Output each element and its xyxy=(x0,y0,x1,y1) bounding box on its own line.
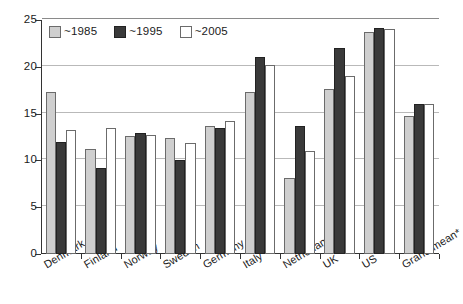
bar xyxy=(345,76,355,254)
x-tick-mark xyxy=(320,254,321,259)
bar xyxy=(85,149,95,254)
bar xyxy=(205,126,215,254)
bar-group xyxy=(121,20,161,254)
legend-swatch-1985 xyxy=(49,26,61,38)
bar xyxy=(185,143,195,254)
bar-group xyxy=(160,20,200,254)
y-tick-label-10: 10 xyxy=(11,154,37,166)
bar-group xyxy=(200,20,240,254)
legend-item: ~1995 xyxy=(114,26,162,38)
bar xyxy=(384,29,394,254)
bar xyxy=(255,57,265,254)
bar xyxy=(215,128,225,254)
y-tick-label-0: 0 xyxy=(11,248,37,260)
bar-group xyxy=(240,20,280,254)
bar xyxy=(96,168,106,254)
bar xyxy=(106,128,116,254)
bar-group xyxy=(359,20,399,254)
gridline-25 xyxy=(42,18,439,19)
x-axis-label-us: US xyxy=(360,253,379,270)
legend-label: ~1985 xyxy=(64,26,97,38)
legend-label: ~1995 xyxy=(129,26,162,38)
legend-swatch-2005 xyxy=(180,26,192,38)
bar xyxy=(324,89,334,254)
bar xyxy=(305,151,315,254)
bar xyxy=(165,138,175,254)
legend-item: ~2005 xyxy=(180,26,228,38)
y-tick-label-5: 5 xyxy=(11,201,37,213)
bar xyxy=(225,121,235,254)
bar xyxy=(66,130,76,254)
bar-group xyxy=(399,20,439,254)
x-tick-mark xyxy=(81,254,82,259)
bar xyxy=(424,104,434,254)
legend-item: ~1985 xyxy=(49,26,97,38)
x-tick-mark xyxy=(240,254,241,259)
bar-group xyxy=(41,20,81,254)
bar xyxy=(245,92,255,254)
bar xyxy=(404,116,414,254)
bar xyxy=(146,135,156,254)
x-tick-mark xyxy=(121,254,122,259)
bar xyxy=(364,32,374,254)
bar xyxy=(374,28,384,254)
legend-label: ~2005 xyxy=(195,26,228,38)
bar xyxy=(295,126,305,254)
y-tick-label-25: 25 xyxy=(11,14,37,26)
y-tick-label-20: 20 xyxy=(11,61,37,73)
bar-group xyxy=(81,20,121,254)
bar xyxy=(284,178,294,254)
bar xyxy=(46,92,56,254)
bar xyxy=(56,142,66,254)
bar-group xyxy=(280,20,320,254)
x-axis-label-uk: UK xyxy=(321,253,340,270)
bar xyxy=(135,133,145,254)
bar xyxy=(334,48,344,254)
bar-group xyxy=(320,20,360,254)
chart-legend: ~1985~1995~2005 xyxy=(49,26,228,38)
legend-swatch-1995 xyxy=(114,26,126,38)
bar xyxy=(175,160,185,254)
x-tick-mark xyxy=(439,254,440,259)
bar xyxy=(265,65,275,254)
bar xyxy=(414,104,424,254)
bars-layer xyxy=(41,20,439,254)
x-tick-mark xyxy=(280,254,281,259)
bar xyxy=(125,136,135,254)
y-tick-mark-0 xyxy=(35,254,41,255)
y-tick-label-15: 15 xyxy=(11,108,37,120)
